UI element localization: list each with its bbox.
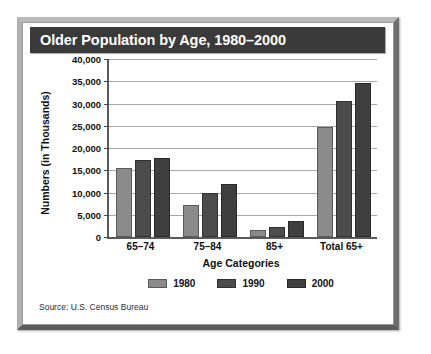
legend-swatch-2000 [287, 279, 306, 288]
y-axis-tick-label: 25,000 [72, 120, 101, 131]
bar-2000-65–74 [154, 158, 170, 237]
legend-item-1980: 1980 [148, 278, 195, 289]
legend-swatch-1980 [148, 279, 167, 288]
y-axis-tick-label: 35,000 [72, 76, 101, 87]
chart-title-banner: Older Population by Age, 1980–2000 [30, 27, 385, 53]
bar-1990-65–74 [135, 160, 151, 237]
legend-item-2000: 2000 [287, 278, 334, 289]
bar-1990-Total 65+ [336, 101, 352, 237]
x-axis-tick-label: Total 65+ [320, 241, 363, 252]
legend-label-2000: 2000 [312, 278, 334, 289]
bar-1980-75–84 [183, 205, 199, 237]
x-axis-tick-label: 75–84 [194, 241, 222, 252]
chart-plot-wrapper: Numbers (in Thousands) 05,00010,00015,00… [23, 59, 393, 289]
y-axis-tick-labels: 05,00010,00015,00020,00025,00030,00035,0… [51, 59, 101, 237]
bars-layer [109, 59, 377, 237]
y-axis-title: Numbers (in Thousands) [39, 73, 51, 233]
legend-label-1980: 1980 [173, 278, 195, 289]
x-axis-tick-labels: 65–7475–8485+Total 65+ [107, 241, 375, 257]
y-axis-tick-mark [104, 237, 109, 238]
chart-legend: 198019902000 [107, 278, 375, 289]
bar-1990-85+ [269, 227, 285, 237]
x-axis-tick-label: 85+ [266, 241, 283, 252]
x-axis-tick-label: 65–74 [127, 241, 155, 252]
bar-2000-Total 65+ [355, 83, 371, 237]
bar-2000-75–84 [221, 184, 237, 237]
bar-2000-85+ [288, 221, 304, 237]
bar-1980-Total 65+ [317, 127, 333, 237]
y-axis-tick-label: 0 [96, 232, 101, 243]
figure-frame: Older Population by Age, 1980–2000 Numbe… [17, 17, 399, 330]
y-axis-tick-label: 5,000 [77, 209, 101, 220]
y-axis-tick-label: 30,000 [72, 98, 101, 109]
y-axis-tick-label: 15,000 [72, 165, 101, 176]
source-note: Source: U.S. Census Bureau [39, 302, 148, 312]
y-axis-tick-label: 40,000 [72, 54, 101, 65]
legend-item-1990: 1990 [217, 278, 264, 289]
legend-swatch-1990 [217, 279, 236, 288]
page-title: Older Population by Age, 1980–2000 [30, 32, 286, 48]
plot-area [107, 59, 377, 239]
figure-card: Older Population by Age, 1980–2000 Numbe… [22, 22, 394, 325]
bar-1980-85+ [250, 230, 266, 237]
bar-1990-75–84 [202, 193, 218, 238]
bar-1980-65–74 [116, 168, 132, 237]
y-axis-tick-label: 20,000 [72, 143, 101, 154]
x-axis-title: Age Categories [107, 257, 375, 269]
legend-label-1990: 1990 [242, 278, 264, 289]
y-axis-tick-label: 10,000 [72, 187, 101, 198]
